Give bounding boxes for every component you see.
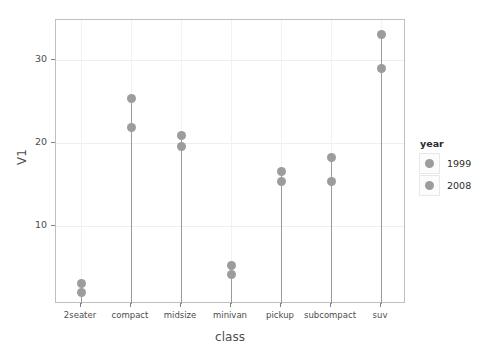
data-point[interactable] — [227, 270, 236, 279]
y-tick-mark — [51, 59, 55, 60]
legend-key-1999 — [419, 153, 440, 174]
stem-line — [181, 135, 182, 304]
y-tick-label: 10 — [0, 220, 47, 230]
gridline-horizontal — [56, 60, 404, 61]
y-tick-mark — [51, 225, 55, 226]
legend-dot-icon — [425, 181, 434, 190]
stem-line — [281, 171, 282, 304]
data-point[interactable] — [177, 142, 186, 151]
x-axis-title: class — [55, 330, 405, 344]
data-point[interactable] — [127, 94, 136, 103]
y-tick-label: 20 — [0, 137, 47, 147]
y-tick-label: 30 — [0, 54, 47, 64]
data-point[interactable] — [377, 64, 386, 73]
legend-item-2008[interactable]: 2008 — [419, 174, 491, 196]
x-tick-mark — [230, 303, 231, 307]
legend-title: year — [420, 138, 491, 149]
data-point[interactable] — [77, 288, 86, 297]
x-tick-mark — [380, 303, 381, 307]
y-tick-mark — [51, 142, 55, 143]
legend: year 1999 2008 — [419, 138, 491, 196]
data-point[interactable] — [77, 279, 86, 288]
gridline-vertical — [81, 20, 82, 302]
chart-figure: V1 class year 1999 2008 1020302seatercom… — [0, 0, 496, 357]
stem-line — [381, 34, 382, 304]
legend-dot-icon — [425, 159, 434, 168]
legend-label-1999: 1999 — [447, 158, 471, 169]
data-point[interactable] — [227, 261, 236, 270]
gridline-horizontal — [56, 226, 404, 227]
data-point[interactable] — [327, 177, 336, 186]
x-tick-mark — [180, 303, 181, 307]
data-point[interactable] — [377, 30, 386, 39]
legend-label-2008: 2008 — [447, 180, 471, 191]
legend-item-1999[interactable]: 1999 — [419, 152, 491, 174]
x-tick-mark — [280, 303, 281, 307]
data-point[interactable] — [327, 153, 336, 162]
data-point[interactable] — [277, 177, 286, 186]
gridline-horizontal — [56, 143, 404, 144]
data-point[interactable] — [127, 123, 136, 132]
legend-key-2008 — [419, 175, 440, 196]
x-tick-label-suv: suv — [340, 311, 420, 320]
gridline-vertical — [231, 20, 232, 302]
x-tick-mark — [80, 303, 81, 307]
plot-panel — [55, 19, 405, 303]
x-tick-mark — [330, 303, 331, 307]
data-point[interactable] — [177, 131, 186, 140]
data-point[interactable] — [277, 167, 286, 176]
x-tick-mark — [130, 303, 131, 307]
